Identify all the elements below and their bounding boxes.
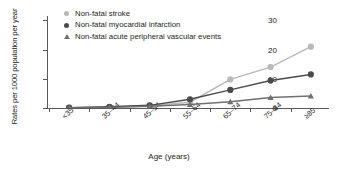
legend-label: Non-fatal myocardial infarction <box>75 19 180 30</box>
data-point <box>227 76 233 82</box>
legend-label: Non-fatal stroke <box>75 8 130 19</box>
x-tick <box>170 108 171 112</box>
legend-item-myocardial-infarction: Non-fatal myocardial infarction <box>62 19 221 30</box>
circle-marker-icon <box>62 11 71 16</box>
y-axis-title: Rates per 1000 population per year <box>10 1 19 133</box>
data-point <box>308 44 314 50</box>
triangle-marker-icon <box>62 34 71 39</box>
x-axis-title: Age (years) <box>0 152 338 161</box>
x-tick <box>250 108 251 112</box>
data-point <box>308 71 314 77</box>
y-tick <box>43 108 47 109</box>
legend-item-peripheral-vascular: Non-fatal acute peripheral vascular even… <box>62 31 221 42</box>
x-tick <box>291 108 292 112</box>
circle-marker-icon <box>62 23 71 28</box>
x-tick <box>130 108 131 112</box>
legend-label: Non-fatal acute peripheral vascular even… <box>75 31 221 42</box>
data-point <box>227 87 233 93</box>
x-tick <box>49 108 50 112</box>
x-tick <box>210 108 211 112</box>
legend-item-stroke: Non-fatal stroke <box>62 8 221 19</box>
x-tick <box>89 108 90 112</box>
data-point <box>267 77 273 83</box>
line-chart: Rates per 1000 population per year 01020… <box>0 0 338 176</box>
legend: Non-fatal stroke Non-fatal myocardial in… <box>62 8 221 42</box>
data-point <box>267 64 273 70</box>
